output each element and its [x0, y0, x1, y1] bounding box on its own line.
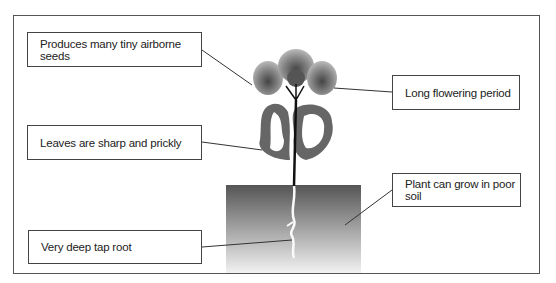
label-poor-soil: Plant can grow in poor soil — [392, 173, 521, 207]
label-prickly-leaves: Leaves are sharp and prickly — [27, 125, 202, 160]
label-flowering-period: Long flowering period — [392, 75, 520, 110]
label-text: Very deep tap root — [41, 241, 131, 253]
flower-heads — [253, 49, 337, 95]
label-text: Plant can grow in poor soil — [405, 178, 520, 202]
label-airborne-seeds: Produces many tiny airborne seeds — [27, 32, 202, 67]
label-text: Long flowering period — [405, 87, 511, 99]
label-text: Leaves are sharp and prickly — [40, 137, 181, 149]
label-tap-root: Very deep tap root — [28, 230, 202, 264]
label-text: Produces many tiny airborne seeds — [40, 38, 201, 62]
